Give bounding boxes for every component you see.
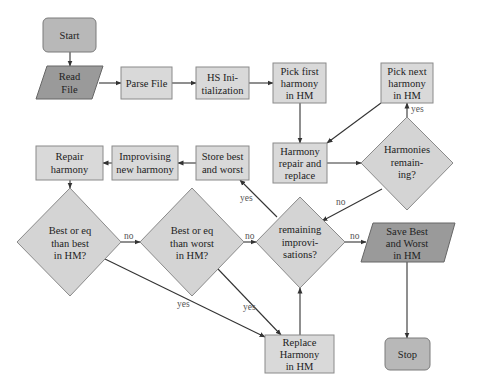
node-start: Start <box>43 18 96 52</box>
node-pick-next: Pick next harmony in HM <box>381 63 433 103</box>
svg-text:Store best: Store best <box>202 151 244 162</box>
label-yes-diamond1: yes <box>177 299 190 309</box>
node-store-best: Store best and worst <box>196 146 249 180</box>
svg-text:tialization: tialization <box>202 85 245 96</box>
label-yes-diamond2: yes <box>243 302 256 312</box>
label-no-save: no <box>350 231 360 241</box>
label-no-remaining: no <box>336 197 346 207</box>
svg-text:than best: than best <box>51 238 89 249</box>
svg-text:and worst: and worst <box>202 164 243 175</box>
node-parse-file: Parse File <box>121 67 172 99</box>
label-no-diamond1: no <box>124 231 134 241</box>
node-hs-init: HS Ini- tialization <box>196 67 249 99</box>
node-save-best: Save Best and Worst in HM <box>361 223 455 262</box>
node-stop: Stop <box>385 338 430 370</box>
svg-text:remaining: remaining <box>279 224 322 235</box>
node-remaining-improvisations: remaining improvi- sations? <box>256 197 345 288</box>
svg-text:improvi-: improvi- <box>282 237 319 248</box>
svg-text:harmony: harmony <box>388 78 426 89</box>
label-yes-picknext: yes <box>411 104 424 114</box>
svg-text:Pick first: Pick first <box>280 66 318 77</box>
svg-text:in HM: in HM <box>286 90 314 101</box>
svg-text:Start: Start <box>60 30 80 41</box>
svg-text:in HM?: in HM? <box>176 250 209 261</box>
svg-text:harmony: harmony <box>281 78 319 89</box>
svg-text:HS Ini-: HS Ini- <box>207 72 239 83</box>
svg-text:Pick next: Pick next <box>387 66 426 77</box>
svg-text:in HM: in HM <box>393 90 421 101</box>
node-repair-harmony: Repair harmony <box>36 146 103 180</box>
svg-text:repair and: repair and <box>279 158 322 169</box>
svg-text:remain-: remain- <box>391 157 424 168</box>
svg-text:sations?: sations? <box>283 249 317 260</box>
label-no-diamond2: no <box>245 231 255 241</box>
flowchart: yes no yes no no no yes yes Start Read F… <box>0 0 477 392</box>
svg-text:in HM?: in HM? <box>54 250 87 261</box>
node-harmonies-remaining: Harmonies remain- ing? <box>361 117 453 210</box>
node-replace-harmony: Replace Harmony in HM <box>265 335 334 373</box>
svg-text:Harmonies: Harmonies <box>384 144 430 155</box>
node-improvising: Improvising new harmony <box>112 146 178 180</box>
node-read-file: Read File <box>36 66 103 99</box>
svg-text:Repair: Repair <box>56 151 84 162</box>
svg-text:and Worst: and Worst <box>386 238 428 249</box>
node-harmony-repair: Harmony repair and replace <box>273 143 327 183</box>
edge-picknext-repair <box>327 103 381 143</box>
svg-text:Parse File: Parse File <box>126 78 168 89</box>
svg-text:in HM: in HM <box>286 361 314 372</box>
svg-text:harmony: harmony <box>51 164 89 175</box>
svg-text:Save Best: Save Best <box>386 226 428 237</box>
svg-text:Improvising: Improvising <box>119 151 171 162</box>
node-pick-first: Pick first harmony in HM <box>273 63 326 103</box>
svg-text:than worst: than worst <box>170 238 214 249</box>
svg-text:Read: Read <box>59 71 81 82</box>
svg-text:Best or eq: Best or eq <box>171 225 214 236</box>
node-best-than-best: Best or eq than best in HM? <box>17 188 121 296</box>
svg-text:File: File <box>61 84 78 95</box>
label-yes-store: yes <box>240 193 253 203</box>
svg-text:replace: replace <box>285 170 316 181</box>
svg-text:Harmony: Harmony <box>280 349 320 360</box>
svg-text:new harmony: new harmony <box>116 164 174 175</box>
svg-text:Best or eq: Best or eq <box>49 225 92 236</box>
svg-text:in HM: in HM <box>393 250 421 261</box>
svg-text:ing?: ing? <box>398 169 416 180</box>
edge-remaining-improv <box>322 189 382 221</box>
svg-text:Stop: Stop <box>398 349 417 360</box>
svg-text:Harmony: Harmony <box>280 146 320 157</box>
edge-labels: yes no yes no no no yes yes <box>124 104 424 312</box>
svg-text:Replace: Replace <box>283 337 317 348</box>
